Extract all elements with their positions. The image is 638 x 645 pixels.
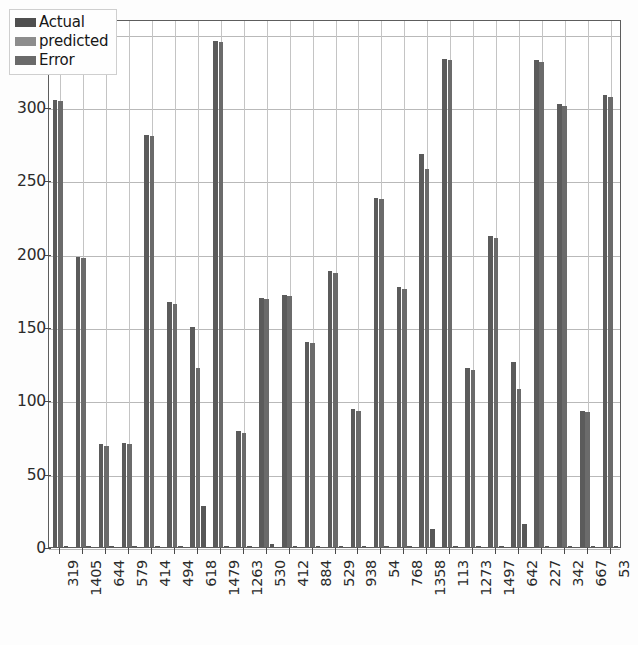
bar-predicted [562,106,567,547]
bar-group [465,19,480,547]
x-tick-label: 1479 [226,560,242,596]
x-tick-mark [289,548,290,554]
legend-item[interactable]: Error [15,51,108,70]
x-tick-mark [587,548,588,554]
x-tick-mark [610,548,611,554]
x-tick-mark [243,548,244,554]
bar-error [522,524,527,547]
bar-actual [580,411,585,547]
x-tick-mark [472,548,473,554]
x-tick-label: 884 [318,560,334,587]
bar-error [178,546,183,547]
bar-group [351,19,366,547]
bar-actual [282,295,287,547]
bar-error [247,546,252,547]
bar-error [86,546,91,547]
bar-error [316,546,321,547]
bar-actual [99,444,104,547]
bar-group [259,19,274,547]
bar-error [155,546,160,547]
bar-actual [259,298,264,547]
bar-actual [167,302,172,547]
x-tick-label: 412 [295,560,311,587]
y-tick-label: 250 [17,172,46,190]
bar-error [362,546,367,547]
x-tick-mark [197,548,198,554]
bar-group [374,19,389,547]
x-tick-mark [128,548,129,554]
bar-error [499,546,504,547]
x-tick-mark [312,548,313,554]
bar-predicted [494,238,499,547]
legend-item[interactable]: predicted [15,32,108,51]
bar-group [557,19,572,547]
x-tick-label: 667 [593,560,609,587]
bar-group [282,19,297,547]
legend-item-label: predicted [39,32,108,51]
x-tick-label: 1358 [432,560,448,596]
bar-actual [236,431,241,547]
bar-actual [305,342,310,547]
y-tick-label: 150 [17,319,46,337]
bar-actual [511,362,516,547]
x-tick-label: 1405 [88,560,104,596]
x-tick-mark [403,548,404,554]
bar-group [603,19,618,547]
x-tick-mark [82,548,83,554]
bar-actual [603,95,608,547]
bar-error [64,546,69,547]
bar-predicted [81,258,86,547]
bar-predicted [287,296,292,547]
bar-predicted [402,289,407,547]
legend-item[interactable]: Actual [15,13,108,32]
y-tick-label: 200 [17,246,46,264]
legend-item-label: Error [39,51,75,70]
x-tick-label: 494 [180,560,196,587]
x-tick-label: 768 [409,560,425,587]
bar-actual [419,154,424,547]
bar-group [305,19,320,547]
x-tick-mark [541,548,542,554]
bar-error [224,546,229,547]
bar-actual [374,198,379,547]
bar-group [328,19,343,547]
bar-error [407,546,412,547]
bar-actual [557,104,562,547]
bar-predicted [585,412,590,547]
plot-frame [48,20,621,548]
bar-actual [465,368,470,547]
x-tick-mark [518,548,519,554]
x-tick-label: 529 [341,560,357,587]
bar-error [384,546,389,547]
y-tick-label: 50 [27,466,46,484]
bar-predicted [219,42,224,547]
bar-predicted [104,446,109,547]
x-tick-mark [564,548,565,554]
bar-group [76,19,91,547]
chart-legend: ActualpredictedError [9,9,117,75]
bar-group [442,19,457,547]
bar-actual [190,327,195,547]
bar-predicted [379,199,384,547]
bar-error [453,546,458,547]
bar-predicted [425,169,430,547]
bar-error [545,546,550,547]
bar-chart-figure: 0501001502002503003503191405644579414494… [0,0,638,645]
bar-group [488,19,503,547]
bar-group [419,19,434,547]
bar-error [109,546,114,547]
x-tick-label: 1273 [478,560,494,596]
bar-predicted [448,60,453,547]
x-tick-mark [105,548,106,554]
x-tick-mark [380,548,381,554]
bar-group [190,19,205,547]
bar-predicted [173,304,178,547]
x-tick-label: 227 [547,560,563,587]
bar-predicted [127,444,132,547]
bar-group [397,19,412,547]
x-tick-mark [151,548,152,554]
x-tick-label: 1497 [501,560,517,596]
x-tick-label: 319 [65,560,81,587]
bar-predicted [310,343,315,547]
bar-error [132,546,137,547]
